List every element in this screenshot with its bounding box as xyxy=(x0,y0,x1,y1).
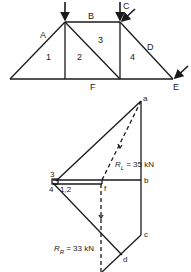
point-label-d: d xyxy=(123,255,127,264)
space-label-a: A xyxy=(40,30,46,40)
space-label-d: D xyxy=(147,42,154,52)
panel-label-4: 4 xyxy=(130,52,135,62)
reaction-right-label: RR= 33 kN xyxy=(54,244,94,255)
reaction-left-subscript: L xyxy=(121,165,124,171)
space-label-f: F xyxy=(90,82,96,92)
panel-label-2: 2 xyxy=(77,52,82,62)
point-label-f: f xyxy=(104,184,107,193)
panel-label-3: 3 xyxy=(98,35,103,45)
point-label-b: b xyxy=(144,176,149,185)
reaction-left-label: RL= 35 kN xyxy=(115,160,154,171)
diagram-canvas: A B C D E F 1 2 3 4 a b c d f 3 4 1,2 RL xyxy=(0,0,191,272)
member-left-rafter xyxy=(10,22,65,79)
panel-label-1: 1 xyxy=(46,52,51,62)
space-label-b: B xyxy=(88,11,94,21)
space-label-c: C xyxy=(123,1,130,11)
point-label-1-2: 1,2 xyxy=(60,185,72,194)
space-label-e: E xyxy=(173,82,179,92)
reaction-right-value: = 33 kN xyxy=(66,244,94,253)
force-labels: a b c d f 3 4 1,2 RL= 35 kN RR= 33 kN xyxy=(49,94,154,264)
point-label-4: 4 xyxy=(49,185,54,194)
load-arrow-support-e-icon xyxy=(175,66,188,78)
force-line-a-3 xyxy=(56,101,141,181)
reaction-right-subscript: R xyxy=(60,249,65,255)
point-label-c: c xyxy=(144,230,148,239)
member-diagonal xyxy=(65,22,120,79)
point-label-a: a xyxy=(143,94,148,103)
reaction-left-value: = 35 kN xyxy=(126,160,154,169)
point-label-3: 3 xyxy=(50,170,55,179)
loads xyxy=(65,2,188,78)
